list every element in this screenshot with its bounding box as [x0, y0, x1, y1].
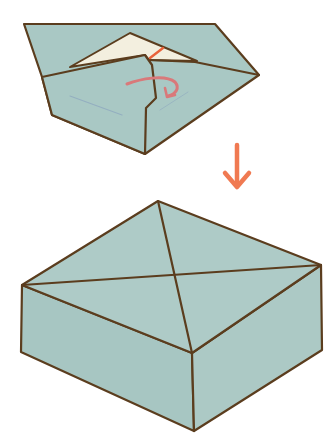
origami-diagram — [0, 0, 330, 444]
step-finished-box — [21, 201, 322, 431]
down-arrow-icon — [225, 145, 249, 187]
step-fold-flap — [24, 24, 259, 154]
